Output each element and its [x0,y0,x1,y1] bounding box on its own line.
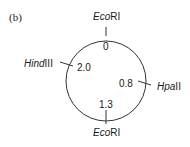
site-label-ecori-bottom: EcoRI [93,128,120,138]
tick-hpaii [138,81,151,85]
site-position-1-3: 1.3 [99,100,113,110]
site-label-hindiii: HindIII [24,59,53,69]
tick-hindiii [60,62,73,66]
site-label-ecori-top: EcoRI [93,12,120,22]
panel-label: (b) [9,12,22,22]
site-position-2-0: 2.0 [77,63,91,73]
restriction-map-graphic [0,0,190,147]
site-position-0: 0 [103,42,109,52]
site-label-hpaii: HpaII [157,82,181,92]
site-position-0-8: 0.8 [119,79,133,89]
